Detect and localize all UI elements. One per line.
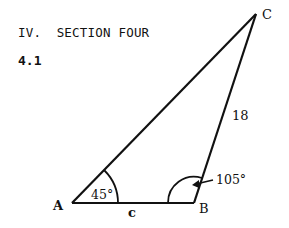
vertex-label-b: B	[199, 201, 209, 216]
angle-label-b: 105°	[216, 172, 246, 187]
side-label-ab: c	[128, 205, 136, 220]
vertex-label-a: A	[52, 198, 64, 213]
triangle-figure: C A B 18 c 45° 105°	[0, 0, 289, 228]
angle-arc-b	[168, 177, 202, 203]
arrow-icon	[192, 180, 199, 188]
angle-label-a: 45°	[91, 187, 113, 202]
side-label-bc: 18	[232, 108, 249, 123]
vertex-label-c: C	[262, 7, 272, 22]
